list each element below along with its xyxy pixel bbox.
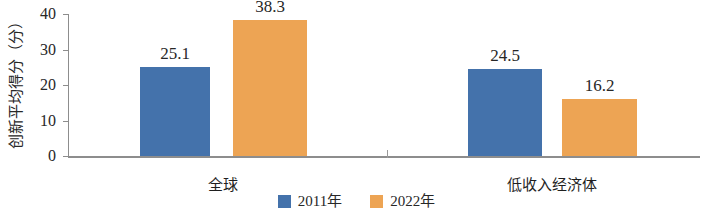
bar-lowincome-2022: 16.2 — [562, 99, 637, 157]
bar-value-lowincome-2022: 16.2 — [585, 76, 615, 95]
bar-global-2022: 38.3 — [233, 20, 307, 156]
legend-item-2022: 2022年 — [370, 193, 435, 210]
y-tick-40: 40 — [63, 14, 69, 15]
legend-swatch-2022-icon — [370, 195, 383, 208]
category-separator-tick — [387, 150, 388, 158]
y-tick-label-40: 40 — [40, 4, 56, 23]
legend-item-2011: 2011年 — [278, 193, 342, 210]
x-axis-line — [68, 156, 700, 158]
bar-value-global-2011: 25.1 — [160, 44, 190, 63]
y-tick-10: 10 — [63, 121, 69, 122]
y-axis-title: 创新平均得分（分） — [9, 2, 24, 162]
y-tick-0: 0 — [63, 156, 69, 157]
bar-global-2011: 25.1 — [140, 67, 210, 156]
bar-value-lowincome-2011: 24.5 — [490, 46, 520, 65]
bar-lowincome-2011: 24.5 — [468, 69, 542, 156]
bar-value-global-2022: 38.3 — [255, 0, 285, 16]
y-tick-20: 20 — [63, 85, 69, 86]
y-tick-30: 30 — [63, 50, 69, 51]
legend-swatch-2011-icon — [278, 195, 291, 208]
category-label-low-income: 低收入经济体 — [482, 176, 622, 194]
legend-label-2022: 2022年 — [390, 193, 435, 210]
y-tick-label-20: 20 — [40, 75, 56, 94]
bar-chart: 创新平均得分（分） 40 30 20 10 0 25.1 38.3 — [0, 0, 713, 219]
legend-label-2011: 2011年 — [298, 193, 342, 210]
legend: 2011年 2022年 — [0, 193, 713, 210]
category-label-global: 全球 — [153, 176, 293, 194]
y-tick-label-10: 10 — [40, 111, 56, 130]
y-tick-label-30: 30 — [40, 40, 56, 59]
plot-area: 40 30 20 10 0 25.1 38.3 24.5 16.2 — [68, 14, 700, 156]
y-tick-label-0: 0 — [48, 146, 56, 165]
